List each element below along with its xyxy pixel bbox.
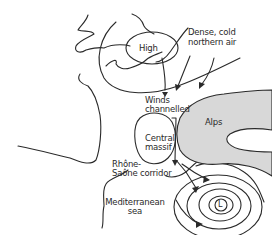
border-line-north	[132, 14, 154, 34]
label-dense-air-1: Dense, cold	[188, 28, 236, 37]
label-med-2: sea	[104, 207, 166, 216]
low-arrow-1	[176, 160, 196, 188]
border-line	[106, 52, 162, 69]
label-central-2: massif	[145, 143, 172, 152]
coastline-west	[76, 15, 130, 52]
coastline-west-south	[18, 74, 101, 163]
label-dense-air-2: northern air	[188, 38, 236, 47]
alps-region	[177, 90, 272, 176]
arrowhead-4	[172, 160, 178, 166]
label-winds-2: channelled	[145, 105, 190, 114]
label-low: L	[218, 200, 222, 209]
label-rhone-2: Saône corridor	[112, 169, 172, 178]
label-high: High	[139, 44, 158, 53]
arrowhead-6	[203, 176, 210, 183]
arrowhead-7	[196, 221, 203, 228]
ligurian-coast	[196, 163, 264, 202]
mistral-wind-diagram: High Dense, cold northern air Winds chan…	[0, 0, 272, 235]
label-alps: Alps	[205, 118, 222, 127]
arrowhead-3	[199, 82, 205, 89]
